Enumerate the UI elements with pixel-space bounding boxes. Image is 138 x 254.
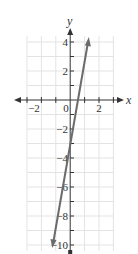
origin-label: 0 xyxy=(63,102,69,114)
y-tick-label: 4 xyxy=(63,36,69,48)
y-tick-label: −2 xyxy=(56,123,68,135)
x-tick-label: −2 xyxy=(28,102,40,114)
y-tick-label: 2 xyxy=(63,65,69,77)
x-tick-label: 2 xyxy=(96,102,102,114)
graph: y x −2 0 2 4 2 −2 −4 −6 −8 −10 xyxy=(0,0,138,254)
x-axis-right-arrow-icon xyxy=(117,97,124,103)
x-axis-left-arrow-icon xyxy=(14,97,21,103)
x-axis-label: x xyxy=(125,93,132,107)
y-axis-up-arrow-icon xyxy=(67,28,73,35)
y-axis-label: y xyxy=(66,14,73,28)
y-axis-end-marker xyxy=(68,250,72,254)
